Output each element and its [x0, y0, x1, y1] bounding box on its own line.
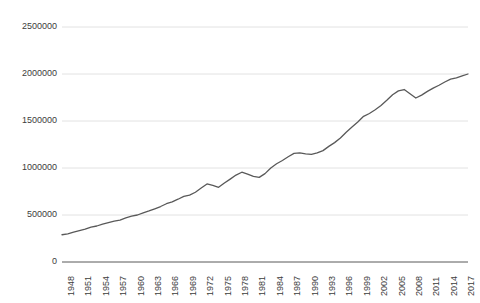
y-axis-tick-label: 500000	[27, 209, 57, 219]
x-axis-tick-label: 1987	[292, 276, 302, 296]
chart-canvas	[0, 0, 480, 303]
x-axis-tick-label: 2017	[466, 276, 476, 296]
x-axis-tick-label: 1954	[101, 276, 111, 296]
x-axis-tick-label: 1981	[257, 276, 267, 296]
x-axis-tick-label: 2011	[431, 277, 441, 296]
x-axis-tick-label: 1963	[153, 276, 163, 296]
x-axis-tick-label: 1975	[223, 276, 233, 296]
x-axis-tick-label: 2005	[397, 276, 407, 296]
y-axis-tick-label: 0	[52, 256, 57, 266]
x-axis-tick-label: 1957	[118, 276, 128, 296]
x-axis-tick-label: 1969	[188, 276, 198, 296]
y-axis-tick-label: 2000000	[22, 68, 57, 78]
x-axis-tick-label: 1990	[310, 276, 320, 296]
x-axis-tick-label: 1960	[136, 276, 146, 296]
x-axis-tick-label: 1999	[362, 276, 372, 296]
y-axis-tick-label: 1500000	[22, 115, 57, 125]
x-axis-tick-label: 1951	[83, 276, 93, 296]
line-chart: 05000001000000150000020000002500000 1948…	[0, 0, 480, 303]
x-axis-tick-label: 1972	[205, 276, 215, 296]
x-axis-tick-label: 1996	[344, 276, 354, 296]
x-axis-tick-label: 2014	[449, 276, 459, 296]
x-axis-tick-label: 2008	[414, 276, 424, 296]
x-axis-tick-label: 1978	[240, 276, 250, 296]
x-axis-tick-label: 1948	[66, 276, 76, 296]
data-series-line	[62, 74, 468, 235]
y-axis-tick-label: 1000000	[22, 162, 57, 172]
x-axis-tick-label: 1966	[170, 276, 180, 296]
y-axis-tick-label: 2500000	[22, 21, 57, 31]
x-axis-tick-label: 2002	[379, 276, 389, 296]
x-axis-tick-label: 1984	[275, 276, 285, 296]
x-axis-tick-label: 1993	[327, 276, 337, 296]
